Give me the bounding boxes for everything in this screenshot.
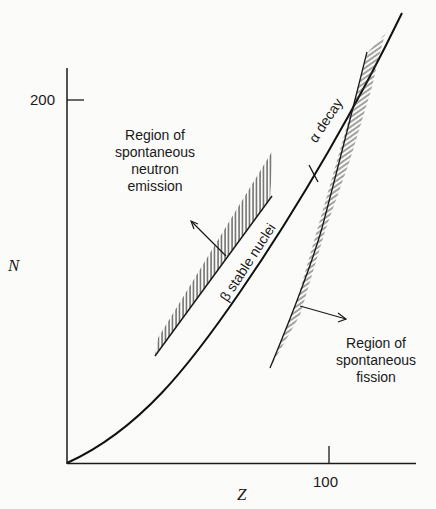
fission-label: Region of spontaneous fission bbox=[324, 335, 428, 386]
y-tick-label: 200 bbox=[30, 91, 55, 108]
x-tick-label: 100 bbox=[313, 473, 338, 490]
neutron-emission-label: Region of spontaneous neutron emission bbox=[103, 127, 207, 195]
x-axis-label: Z bbox=[237, 486, 246, 503]
nuclear-stability-diagram bbox=[0, 0, 436, 509]
y-axis-label: N bbox=[8, 257, 19, 274]
alpha-decay-marker bbox=[309, 165, 318, 182]
fission-boundary bbox=[270, 34, 385, 368]
